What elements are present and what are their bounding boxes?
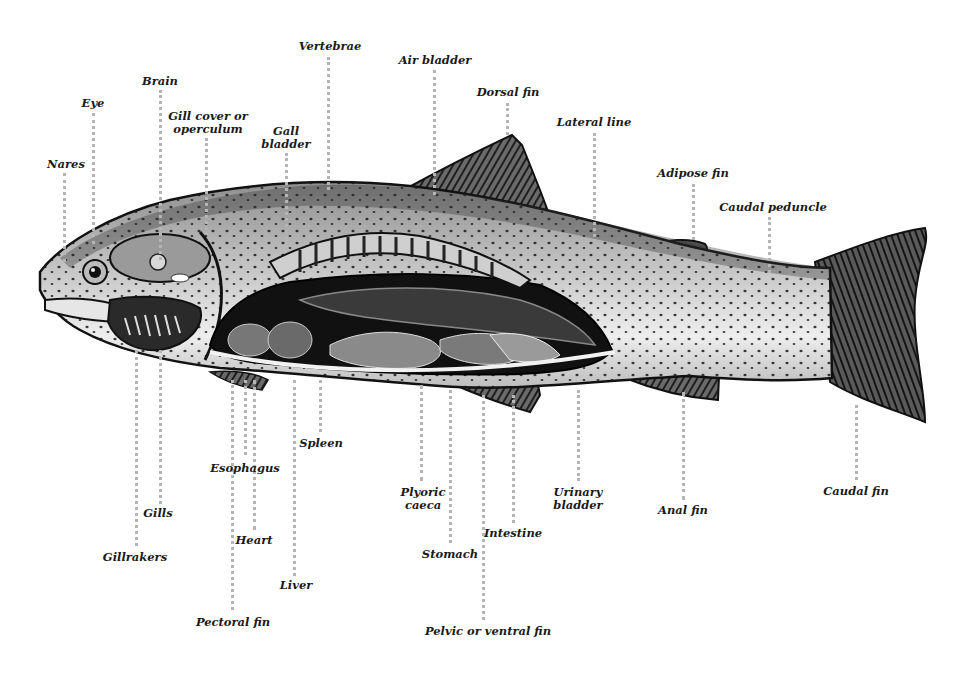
leader-line-gill-cover <box>205 138 208 235</box>
leader-line-esophagus <box>244 380 247 455</box>
trout-cutaway-illustration <box>0 0 970 674</box>
leader-line-air-bladder <box>433 70 436 195</box>
leader-line-pectoral-fin <box>231 380 234 610</box>
leader-line-pelvic-fin <box>482 395 485 620</box>
leader-line-nares <box>63 173 66 262</box>
label-esophagus: Esophagus <box>210 462 280 475</box>
label-intestine: Intestine <box>484 527 542 540</box>
label-pelvic-fin: Pelvic or ventral fin <box>425 625 551 638</box>
leader-line-lateral-line <box>593 133 596 237</box>
label-gillrakers: Gillrakers <box>103 551 167 564</box>
label-brain: Brain <box>142 75 178 88</box>
leader-line-spleen <box>319 380 322 432</box>
leader-line-eye <box>92 113 95 244</box>
label-spleen: Spleen <box>299 437 343 450</box>
leader-line-dorsal-fin <box>506 103 509 135</box>
leader-line-urinary-bladder <box>577 390 580 481</box>
label-plyoric-caeca: Plyoric caeca <box>401 486 446 512</box>
trout-anatomy-diagram: Nares Eye Brain Gill cover or operculum … <box>0 0 970 674</box>
label-eye: Eye <box>82 97 105 110</box>
leader-line-caudal-fin <box>855 405 858 480</box>
label-air-bladder: Air bladder <box>399 54 472 67</box>
label-vertebrae: Vertebrae <box>299 40 362 53</box>
leader-line-stomach <box>449 390 452 543</box>
leader-line-adipose-fin <box>692 184 695 240</box>
leader-line-liver <box>293 380 296 576</box>
leader-line-plyoric-caeca <box>420 385 423 481</box>
leader-line-gills <box>159 350 162 504</box>
label-caudal-peduncle: Caudal peduncle <box>719 201 827 214</box>
label-nares: Nares <box>47 158 85 171</box>
label-caudal-fin: Caudal fin <box>823 485 889 498</box>
leader-line-intestine <box>512 395 515 523</box>
label-lateral-line: Lateral line <box>557 116 631 129</box>
leader-line-gall-bladder <box>285 153 288 250</box>
label-anal-fin: Anal fin <box>658 504 708 517</box>
leader-line-anal-fin <box>682 392 685 500</box>
leader-line-gillrakers <box>135 350 138 546</box>
label-gill-cover: Gill cover or operculum <box>168 110 247 136</box>
label-liver: Liver <box>280 579 313 592</box>
leader-line-vertebrae <box>327 57 330 190</box>
label-heart: Heart <box>235 534 272 547</box>
label-urinary-bladder: Urinary bladder <box>553 486 602 512</box>
label-gills: Gills <box>143 507 172 520</box>
label-gall-bladder: Gall bladder <box>261 125 310 151</box>
leader-line-caudal-peduncle <box>768 217 771 273</box>
label-pectoral-fin: Pectoral fin <box>196 616 270 629</box>
leader-line-heart <box>253 380 256 530</box>
label-dorsal-fin: Dorsal fin <box>477 86 540 99</box>
label-stomach: Stomach <box>422 548 478 561</box>
label-adipose-fin: Adipose fin <box>657 167 729 180</box>
leader-line-brain <box>159 90 162 260</box>
